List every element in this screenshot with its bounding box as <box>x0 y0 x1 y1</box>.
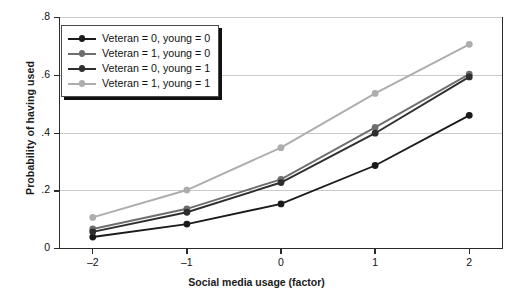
data-point-marker <box>466 41 473 48</box>
data-point-marker <box>183 221 190 228</box>
data-point-marker <box>278 179 285 186</box>
data-point-marker <box>372 130 379 137</box>
legend-line-marker-icon <box>68 48 96 59</box>
legend-item[interactable]: Veteran = 1, young = 0 <box>68 46 210 61</box>
series-line <box>93 77 470 232</box>
legend-item-label: Veteran = 0, young = 1 <box>102 61 210 76</box>
legend: Veteran = 0, young = 0 Veteran = 1, youn… <box>61 25 219 97</box>
legend-line-marker-icon <box>68 63 96 74</box>
legend-item[interactable]: Veteran = 0, young = 0 <box>68 31 210 46</box>
data-point-marker <box>466 112 473 119</box>
data-point-marker <box>372 162 379 169</box>
legend-item-label: Veteran = 0, young = 0 <box>102 31 210 46</box>
data-point-marker <box>278 144 285 151</box>
chart-container: Probability of having used 0.2.4.6.8–2–1… <box>0 0 513 298</box>
legend-item[interactable]: Veteran = 1, young = 1 <box>68 76 210 91</box>
data-point-marker <box>183 187 190 194</box>
legend-item-label: Veteran = 1, young = 1 <box>102 76 210 91</box>
legend-item[interactable]: Veteran = 0, young = 1 <box>68 61 210 76</box>
legend-line-marker-icon <box>68 33 96 44</box>
data-point-marker <box>278 200 285 207</box>
data-point-marker <box>89 228 96 235</box>
data-point-marker <box>466 74 473 81</box>
data-point-marker <box>183 209 190 216</box>
data-point-marker <box>372 90 379 97</box>
legend-line-marker-icon <box>68 78 96 89</box>
legend-item-label: Veteran = 1, young = 0 <box>102 46 210 61</box>
x-axis-title: Social media usage (factor) <box>0 276 513 288</box>
data-point-marker <box>89 214 96 221</box>
